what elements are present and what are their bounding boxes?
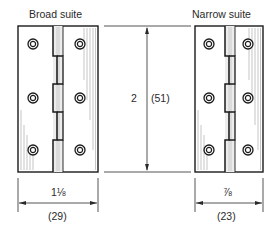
screw-icon [243, 39, 253, 49]
screw-icon [204, 93, 214, 103]
screw-icon [243, 145, 253, 155]
narrow-suite-title: Narrow suite [192, 8, 251, 20]
screw-icon [28, 93, 38, 103]
height-dimension [104, 26, 191, 172]
narrow-hinge [195, 26, 263, 172]
screw-icon [243, 93, 253, 103]
height-mm-label: (51) [151, 92, 170, 104]
broad-hinge [18, 26, 98, 172]
narrow-width-fraction: ⅞ [223, 186, 232, 198]
hinge-diagram [0, 0, 275, 235]
screw-icon [204, 39, 214, 49]
screw-icon [75, 39, 85, 49]
screw-icon [75, 145, 85, 155]
broad-suite-title: Broad suite [29, 8, 82, 20]
screw-icon [204, 145, 214, 155]
broad-width-fraction: 1⅛ [51, 186, 66, 198]
broad-width-mm: (29) [48, 210, 67, 222]
screw-icon [28, 145, 38, 155]
screw-icon [28, 39, 38, 49]
screw-icon [75, 93, 85, 103]
narrow-width-mm: (23) [217, 210, 236, 222]
height-inches-label: 2 [131, 92, 137, 104]
